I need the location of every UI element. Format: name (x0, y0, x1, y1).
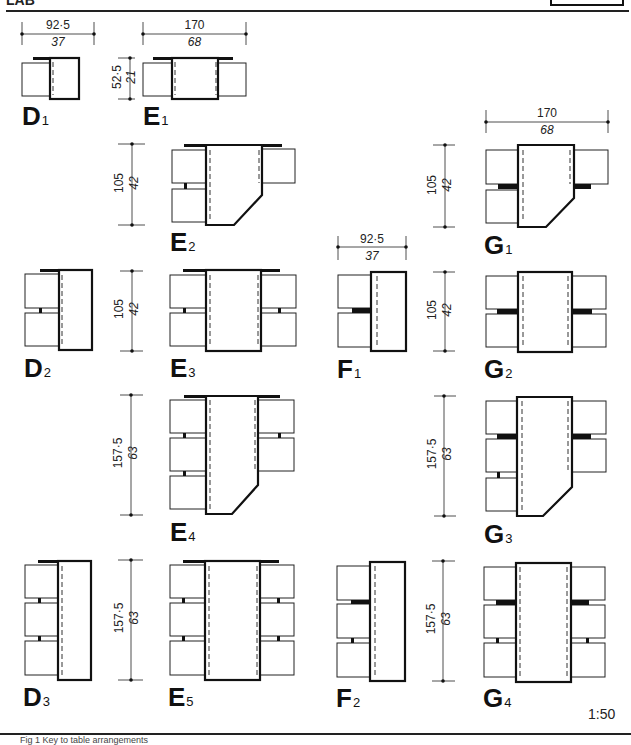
label-e5: E5 (168, 684, 194, 715)
dim-e2-height-imperial: 42 (127, 163, 141, 203)
dim-g3-height-metric: 157·5 (425, 434, 439, 474)
dim-e3-height-metric: 105 (112, 289, 126, 329)
label-f1: F1 (337, 356, 361, 387)
dim-e5-height-metric: 157·5 (112, 598, 126, 638)
dim-e4-height-imperial: 63 (126, 433, 140, 473)
layout-e5 (170, 560, 294, 680)
layout-d2 (25, 269, 92, 350)
dim-g2-height-metric: 105 (425, 290, 439, 330)
label-d3: D3 (23, 684, 50, 715)
dim-g1-width-metric: 170 (486, 106, 608, 120)
dim-h52-imperial: 21 (124, 57, 138, 97)
label-g2: G2 (484, 356, 512, 387)
layout-e3 (170, 269, 296, 351)
scale-label: 1:50 (588, 706, 615, 722)
label-d2: D2 (24, 355, 51, 386)
dim-h52-metric: 52·5 (110, 57, 124, 97)
dim-f1-width-metric: 92·5 (338, 232, 406, 246)
label-e4: E4 (170, 519, 196, 550)
dim-e3-height-imperial: 42 (127, 289, 141, 329)
dim-d1-width-imperial: 37 (22, 35, 94, 49)
dim-e5-height-imperial: 63 (127, 598, 141, 638)
layout-e1 (143, 57, 246, 99)
label-g1: G1 (484, 232, 512, 263)
layout-g2 (486, 272, 606, 352)
label-g3: G3 (484, 521, 512, 552)
layout-e2 (172, 144, 295, 225)
dim-e2-height-metric: 105 (112, 163, 126, 203)
dim-g3-height-imperial: 63 (440, 434, 454, 474)
label-d1: D1 (22, 103, 49, 134)
label-e3: E3 (170, 355, 196, 386)
dim-g1-width-imperial: 68 (486, 123, 608, 137)
dim-e1-width-metric: 170 (143, 18, 246, 32)
layout-e4 (170, 395, 294, 514)
dim-g1-height-imperial: 42 (440, 165, 454, 205)
layout-g1 (486, 145, 608, 227)
layout-f2 (337, 562, 405, 681)
dim-g2-height-imperial: 42 (440, 290, 454, 330)
layout-d3 (25, 560, 91, 680)
dim-e1-width-imperial: 68 (143, 35, 246, 49)
dim-g4-height-metric: 157·5 (424, 599, 438, 639)
dim-d1-width-metric: 92·5 (22, 18, 94, 32)
dim-e4-height-metric: 157·5 (111, 433, 125, 473)
label-f2: F2 (336, 685, 360, 716)
dim-g1-height-metric: 105 (425, 165, 439, 205)
label-g4: G4 (483, 685, 511, 716)
dim-g4-height-imperial: 63 (439, 599, 453, 639)
layout-f1 (338, 272, 406, 351)
label-e1: E1 (143, 103, 169, 134)
layout-d1 (22, 57, 79, 99)
footer-caption: Fig 1 Key to table arrangements (20, 735, 148, 745)
layout-g4 (484, 563, 605, 682)
layout-g3 (486, 397, 606, 516)
dim-f1-width-imperial: 37 (338, 249, 406, 263)
label-e2: E2 (170, 229, 196, 260)
